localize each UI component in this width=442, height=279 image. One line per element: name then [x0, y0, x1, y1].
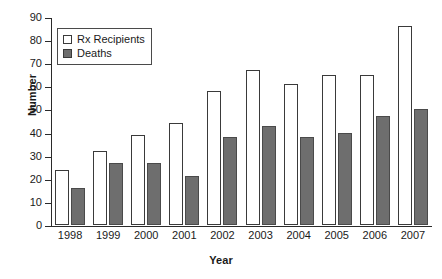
x-axis-tick-label: 2000 — [127, 229, 165, 242]
legend-item-rx-recipients: Rx Recipients — [63, 32, 145, 46]
bar-group: 2005 — [318, 17, 356, 225]
y-axis-tick-label: 60 — [30, 80, 42, 93]
x-axis-tick-label: 2001 — [165, 229, 203, 242]
bar-deaths — [262, 126, 276, 225]
legend-item-deaths: Deaths — [63, 46, 145, 60]
bar-deaths — [109, 163, 123, 225]
x-axis-line — [51, 226, 432, 227]
bar-deaths — [414, 109, 428, 225]
y-axis-tick-label: 0 — [36, 219, 42, 232]
x-axis-tick-label: 2004 — [280, 229, 318, 242]
y-axis-tick-label: 80 — [30, 34, 42, 47]
bar-group: 2004 — [280, 17, 318, 225]
bar-rx-recipients — [360, 75, 374, 225]
x-axis-tick-label: 2005 — [318, 229, 356, 242]
y-axis-tick-label: 70 — [30, 57, 42, 70]
y-axis-tick: 0 — [45, 226, 51, 227]
bar-group: 2001 — [165, 17, 203, 225]
bar-group: 2003 — [242, 17, 280, 225]
bar-chart-figure: Number 0102030405060708090 1998199920002… — [0, 0, 442, 279]
bar-group: 2007 — [394, 17, 432, 225]
bar-group: 2002 — [203, 17, 241, 225]
bar-rx-recipients — [131, 135, 145, 225]
y-axis-tick-label: 30 — [30, 150, 42, 163]
x-axis-title: Year — [0, 254, 442, 266]
x-axis-tick-label: 2003 — [242, 229, 280, 242]
y-axis-tick-label: 90 — [30, 11, 42, 24]
bar-deaths — [376, 116, 390, 225]
legend-label-rx-recipients: Rx Recipients — [77, 33, 145, 46]
x-axis-tick-label: 1999 — [89, 229, 127, 242]
bar-rx-recipients — [398, 26, 412, 225]
bar-rx-recipients — [246, 70, 260, 225]
y-axis-tick-label: 50 — [30, 103, 42, 116]
bar-rx-recipients — [207, 91, 221, 225]
bar-deaths — [300, 137, 314, 225]
bar-rx-recipients — [55, 170, 69, 225]
y-axis-tick-label: 10 — [30, 196, 42, 209]
legend-label-deaths: Deaths — [77, 47, 112, 60]
x-axis-tick-label: 2006 — [356, 229, 394, 242]
bar-rx-recipients — [322, 75, 336, 225]
bar-rx-recipients — [284, 84, 298, 225]
legend-swatch-deaths — [63, 49, 72, 58]
bar-deaths — [223, 137, 237, 225]
bar-deaths — [147, 163, 161, 225]
bar-group: 2006 — [356, 17, 394, 225]
legend-swatch-rx-recipients — [63, 35, 72, 44]
bar-deaths — [338, 133, 352, 225]
bar-deaths — [71, 188, 85, 225]
y-axis-tick-label: 40 — [30, 127, 42, 140]
x-axis-tick-label: 2007 — [394, 229, 432, 242]
y-axis-tick-label: 20 — [30, 173, 42, 186]
x-axis-tick-label: 1998 — [51, 229, 89, 242]
chart-legend: Rx Recipients Deaths — [57, 28, 152, 65]
x-axis-tick-label: 2002 — [203, 229, 241, 242]
bar-rx-recipients — [93, 151, 107, 225]
bar-deaths — [185, 176, 199, 225]
bar-rx-recipients — [169, 123, 183, 225]
